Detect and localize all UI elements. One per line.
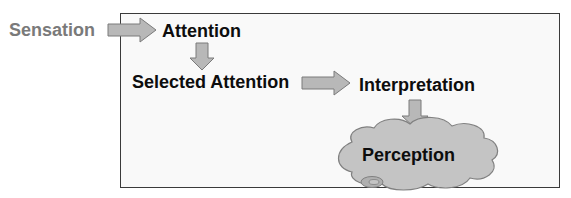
node-perception: Perception: [362, 145, 455, 166]
arrow-right-icon: [302, 71, 350, 95]
arrow-right-icon: [108, 18, 156, 42]
node-attention: Attention: [162, 21, 241, 42]
node-interpretation: Interpretation: [359, 75, 475, 96]
node-sensation: Sensation: [9, 20, 95, 41]
node-selected-attention: Selected Attention: [132, 72, 289, 93]
arrow-down-icon: [190, 43, 214, 70]
